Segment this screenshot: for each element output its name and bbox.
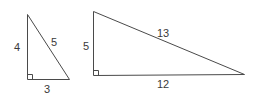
diagram-canvas: 4 5 3 5 13 12 [0, 0, 262, 102]
large-triangle-outline [94, 12, 245, 76]
large-hypotenuse-label: 13 [157, 27, 169, 39]
large-right-angle-marker [94, 71, 99, 76]
small-triangle: 4 5 3 [14, 15, 70, 96]
small-triangle-outline [28, 15, 70, 80]
small-vertical-leg-label: 4 [14, 41, 20, 53]
large-vertical-leg-label: 5 [83, 40, 89, 52]
small-horizontal-leg-label: 3 [44, 83, 50, 95]
large-triangle: 5 13 12 [83, 12, 245, 91]
large-horizontal-leg-label: 12 [157, 78, 169, 90]
small-hypotenuse-label: 5 [51, 36, 57, 48]
small-right-angle-marker [28, 75, 33, 80]
